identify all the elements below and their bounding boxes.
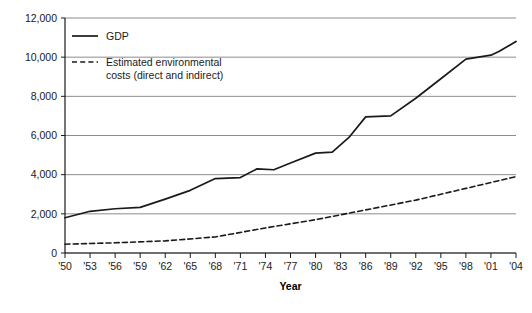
x-axis-label-50: '50 [58, 260, 72, 272]
x-axis-label-65: '65 [183, 260, 197, 272]
y-axis-label-4000: 4,000 [31, 168, 57, 180]
x-axis-label-77: '77 [284, 260, 298, 272]
x-axis-label-80: '80 [309, 260, 323, 272]
y-axis-label-12000: 12,000 [25, 12, 57, 24]
x-axis-label-71: '71 [234, 260, 248, 272]
x-axis-title: Year [279, 280, 301, 292]
y-axis-label-6000: 6,000 [31, 129, 57, 141]
x-axis-label-98: '98 [459, 260, 473, 272]
x-axis-label-59: '59 [133, 260, 147, 272]
x-axis-label-92: '92 [409, 260, 423, 272]
x-axis-label-89: '89 [384, 260, 398, 272]
x-axis-label-04: '04 [509, 260, 523, 272]
y-axis-label-0: 0 [51, 247, 57, 259]
line-chart: 12,00010,0008,0006,0004,0002,0000'50'53'… [0, 0, 532, 313]
x-axis-label-86: '86 [359, 260, 373, 272]
x-axis-label-53: '53 [83, 260, 97, 272]
legend-label-gdp: GDP [106, 30, 129, 42]
series-line-env-costs [65, 177, 516, 245]
x-axis-label-74: '74 [259, 260, 273, 272]
x-axis-label-62: '62 [158, 260, 172, 272]
y-axis-label-2000: 2,000 [31, 208, 57, 220]
x-axis-label-68: '68 [208, 260, 222, 272]
legend-label-env-costs-line1: Estimated environmental [106, 56, 222, 68]
x-axis-label-95: '95 [434, 260, 448, 272]
legend-label-env-costs-line2: costs (direct and indirect) [106, 69, 223, 81]
x-axis-label-01: '01 [484, 260, 498, 272]
x-axis-label-83: '83 [334, 260, 348, 272]
y-axis-label-8000: 8,000 [31, 90, 57, 102]
y-axis-label-10000: 10,000 [25, 51, 57, 63]
chart-container: 12,00010,0008,0006,0004,0002,0000'50'53'… [0, 0, 532, 313]
x-axis-label-56: '56 [108, 260, 122, 272]
